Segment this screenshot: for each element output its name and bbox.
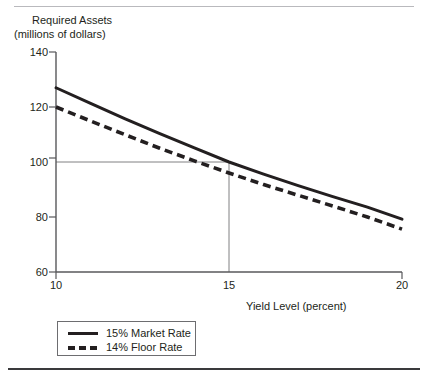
legend-item-market-rate: 15% Market Rate bbox=[68, 326, 191, 340]
legend-label-market-rate: 15% Market Rate bbox=[106, 327, 191, 339]
figure-required-assets-vs-yield: Required Assets (millions of dollars) 14… bbox=[0, 0, 428, 377]
x-axis-title: Yield Level (percent) bbox=[246, 300, 346, 312]
bottom-divider-rule bbox=[8, 368, 420, 370]
chart-legend: 15% Market Rate 14% Floor Rate bbox=[57, 321, 196, 356]
legend-swatch-dashed-line-icon bbox=[68, 342, 98, 352]
legend-swatch-solid-line-icon bbox=[68, 328, 98, 338]
legend-item-floor-rate: 14% Floor Rate bbox=[68, 340, 182, 354]
legend-label-floor-rate: 14% Floor Rate bbox=[106, 341, 182, 353]
